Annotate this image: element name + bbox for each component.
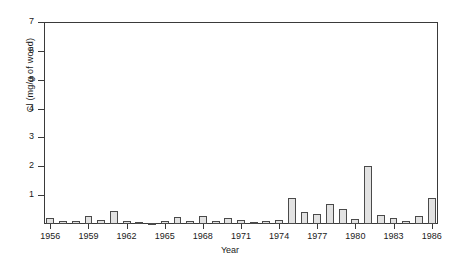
x-axis-tick bbox=[50, 224, 51, 229]
x-axis-tick-label: 1962 bbox=[107, 231, 147, 241]
x-axis-tick-label: 1956 bbox=[30, 231, 70, 241]
bar bbox=[313, 214, 321, 224]
bar bbox=[250, 222, 258, 224]
bar-chart-figure: Cl (mg/g of wood) 1234567 19561959196219… bbox=[0, 0, 460, 266]
y-axis-tick bbox=[38, 109, 44, 110]
plot-area bbox=[44, 22, 438, 224]
y-axis-tick bbox=[38, 137, 44, 138]
bar bbox=[161, 221, 169, 224]
x-axis-tick bbox=[203, 224, 204, 229]
y-axis-tick bbox=[38, 22, 44, 23]
y-axis-tick-label: 6 bbox=[10, 46, 34, 55]
bar bbox=[275, 220, 283, 224]
y-axis-tick bbox=[38, 195, 44, 196]
bar bbox=[390, 218, 398, 224]
x-axis-tick-label: 1968 bbox=[183, 231, 223, 241]
x-axis-tick bbox=[355, 224, 356, 229]
bar bbox=[326, 204, 334, 224]
bar bbox=[339, 209, 347, 224]
bar bbox=[237, 220, 245, 224]
bar bbox=[46, 218, 54, 224]
y-axis-tick-label: 4 bbox=[10, 104, 34, 113]
bar bbox=[199, 216, 207, 224]
bar bbox=[377, 215, 385, 224]
bar bbox=[72, 221, 80, 224]
y-axis-tick bbox=[38, 80, 44, 81]
bar bbox=[351, 219, 359, 224]
bar bbox=[224, 218, 232, 224]
y-axis-tick-label: 2 bbox=[10, 161, 34, 170]
bar bbox=[301, 212, 309, 224]
bar bbox=[288, 198, 296, 224]
x-axis-tick bbox=[88, 224, 89, 229]
x-axis-tick-label: 1980 bbox=[335, 231, 375, 241]
y-axis-tick-label: 3 bbox=[10, 132, 34, 141]
x-axis-tick bbox=[165, 224, 166, 229]
x-axis-tick-label: 1965 bbox=[145, 231, 185, 241]
x-axis-tick bbox=[317, 224, 318, 229]
bar bbox=[135, 222, 143, 224]
x-axis-tick-label: 1959 bbox=[68, 231, 108, 241]
bar bbox=[148, 223, 156, 225]
bar bbox=[110, 211, 118, 224]
x-axis-tick-label: 1974 bbox=[259, 231, 299, 241]
y-axis-tick-label: 5 bbox=[10, 75, 34, 84]
x-axis-tick-label: 1983 bbox=[374, 231, 414, 241]
bar bbox=[262, 221, 270, 224]
x-axis-tick bbox=[279, 224, 280, 229]
x-axis-tick bbox=[394, 224, 395, 229]
bar bbox=[97, 220, 105, 224]
bar bbox=[364, 166, 372, 224]
bar bbox=[186, 221, 194, 224]
x-axis-tick bbox=[127, 224, 128, 229]
y-axis-tick bbox=[38, 166, 44, 167]
bar bbox=[428, 198, 436, 224]
x-axis-tick-label: 1971 bbox=[221, 231, 261, 241]
x-axis-tick bbox=[241, 224, 242, 229]
bar bbox=[85, 216, 93, 224]
bar bbox=[174, 217, 182, 224]
bar bbox=[402, 221, 410, 224]
bar bbox=[415, 216, 423, 224]
y-axis-tick-label: 7 bbox=[10, 17, 34, 26]
x-axis-label: Year bbox=[0, 245, 460, 255]
x-axis-tick-label: 1986 bbox=[412, 231, 452, 241]
x-axis-tick-label: 1977 bbox=[297, 231, 337, 241]
x-axis-tick bbox=[432, 224, 433, 229]
bar bbox=[212, 221, 220, 224]
y-axis-tick bbox=[38, 51, 44, 52]
y-axis-tick-label: 1 bbox=[10, 190, 34, 199]
bar bbox=[123, 221, 131, 224]
bar bbox=[59, 221, 67, 224]
